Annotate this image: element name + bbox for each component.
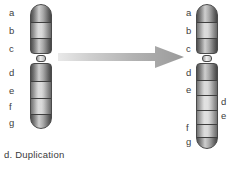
band-b — [31, 22, 51, 38]
band-a — [31, 5, 51, 22]
band-e — [197, 80, 217, 95]
band-d — [31, 64, 51, 81]
band-a — [197, 5, 217, 22]
original-label-c: c — [9, 44, 14, 54]
duplicated-label-e: e — [186, 85, 191, 95]
duplicated-chromosome — [196, 0, 218, 152]
original-label-b: b — [9, 26, 14, 36]
centromere — [202, 55, 212, 62]
figure-caption: d. Duplication — [4, 149, 64, 160]
duplicated-label-b: b — [186, 26, 191, 36]
figure-canvas: a b c d e f g — [0, 0, 230, 169]
original-label-e: e — [9, 86, 14, 96]
duplicated-label-d: d — [186, 68, 191, 78]
band-d-duplicate — [197, 95, 217, 110]
duplicated-label-c: c — [186, 44, 191, 54]
duplicated-label-f: f — [186, 123, 189, 133]
duplicated-label-g: g — [186, 137, 191, 147]
original-chromosome — [30, 0, 52, 132]
band-f — [197, 124, 217, 137]
original-label-a: a — [9, 8, 14, 18]
band-c — [197, 38, 217, 54]
right-arrow-icon — [58, 44, 184, 70]
duplicated-long-arm — [196, 63, 218, 149]
band-g — [197, 137, 217, 149]
duplicated-label-a: a — [186, 8, 191, 18]
duplicate-segment-label-e: e — [221, 111, 226, 121]
original-label-d: d — [9, 68, 14, 78]
original-label-g: g — [9, 118, 14, 128]
band-e — [31, 81, 51, 98]
duplicated-short-arm — [196, 4, 218, 54]
original-long-arm — [30, 63, 52, 129]
duplicate-segment-label-d: d — [221, 97, 226, 107]
centromere — [36, 55, 46, 62]
band-e-duplicate — [197, 110, 217, 124]
original-short-arm — [30, 4, 52, 54]
band-g — [31, 114, 51, 129]
band-b — [197, 22, 217, 38]
band-d — [197, 64, 217, 80]
band-c — [31, 38, 51, 54]
band-f — [31, 98, 51, 114]
original-label-f: f — [9, 102, 12, 112]
